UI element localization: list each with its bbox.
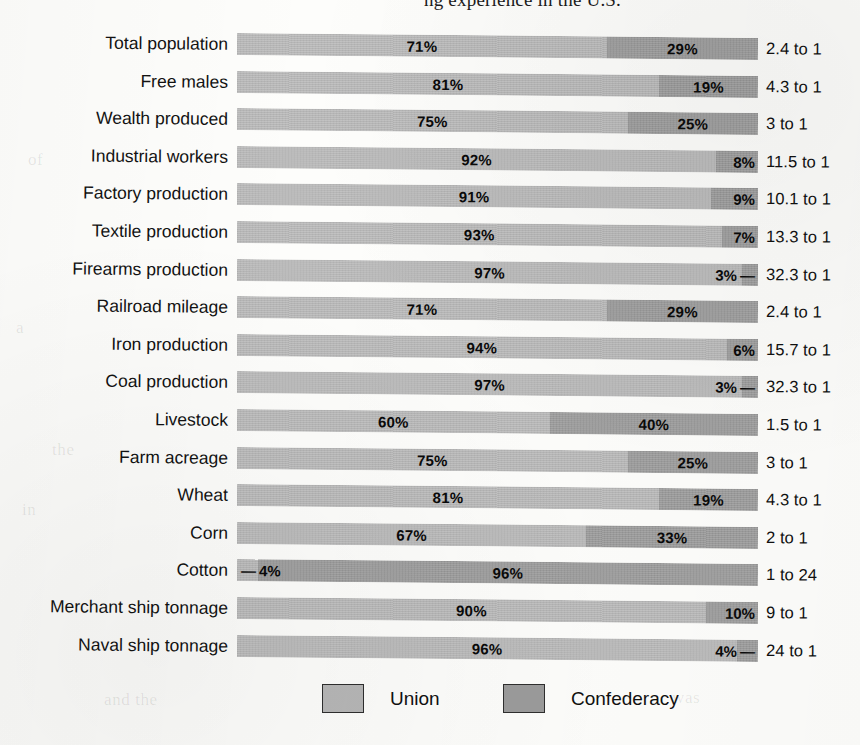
row-ratio: 11.5 to 1 bbox=[766, 152, 830, 172]
row-bar: 71%29% bbox=[237, 33, 758, 60]
row-ratio: 10.1 to 1 bbox=[766, 189, 831, 209]
row-ratio: 1 to 24 bbox=[766, 565, 817, 584]
bar-segment-union: 67% bbox=[237, 522, 586, 547]
row-ratio: 9 to 1 bbox=[766, 603, 808, 622]
bar-value-union: 97% bbox=[474, 263, 505, 280]
bar-segment-union: 93% bbox=[237, 221, 722, 248]
chart-row: Factory production91%9%10.1 to 1 bbox=[0, 178, 860, 216]
bar-value-confederacy: 8% bbox=[733, 151, 755, 173]
bar-value-confederacy: 3% — bbox=[715, 376, 755, 398]
bar-value-union: 60% bbox=[378, 413, 409, 430]
row-bar: 67%33% bbox=[237, 522, 758, 549]
bar-value-union: 71% bbox=[407, 300, 438, 317]
chart-row: Merchant ship tonnage90%10%9 to 1 bbox=[0, 592, 860, 630]
bar-segment-union: 92% bbox=[237, 146, 717, 173]
bar-value-union: 93% bbox=[464, 226, 495, 243]
chart-row: Naval ship tonnage96%4% —24 to 1 bbox=[0, 629, 860, 667]
chart-row: Livestock60%40%1.5 to 1 bbox=[0, 404, 860, 442]
row-label: Factory production bbox=[0, 180, 228, 205]
row-label: Naval ship tonnage bbox=[0, 632, 228, 657]
bar-segment-union: 60% bbox=[237, 409, 550, 434]
row-label: Corn bbox=[0, 519, 228, 544]
bar-value-union: 91% bbox=[459, 188, 490, 205]
row-bar: 81%19% bbox=[237, 71, 758, 98]
row-bar: 94% bbox=[237, 334, 758, 361]
legend-item-union[interactable]: Union bbox=[322, 684, 440, 713]
row-label: Wealth produced bbox=[0, 105, 228, 130]
bar-value-confederacy: 29% bbox=[667, 303, 698, 320]
bar-value-union: 71% bbox=[407, 37, 438, 54]
row-bar: 91% bbox=[237, 183, 758, 210]
bar-segment-confederacy: 25% bbox=[628, 450, 758, 473]
chart-row: Free males81%19%4.3 to 1 bbox=[0, 65, 860, 103]
bar-value-union: 75% bbox=[417, 112, 448, 129]
bar-value-union: 81% bbox=[433, 489, 464, 506]
row-label: Wheat bbox=[0, 481, 228, 506]
row-ratio: 2 to 1 bbox=[766, 528, 808, 547]
row-bar: 93% bbox=[237, 221, 758, 248]
bar-value-confederacy: 25% bbox=[677, 453, 708, 470]
bar-value-confederacy: 19% bbox=[693, 491, 724, 508]
row-ratio: 13.3 to 1 bbox=[766, 227, 831, 247]
row-ratio: 32.3 to 1 bbox=[766, 265, 831, 285]
chart-row: Coal production97%3% —32.3 to 1 bbox=[0, 366, 860, 404]
legend-label-union: Union bbox=[390, 688, 440, 710]
row-label: Free males bbox=[0, 68, 228, 93]
row-ratio: 2.4 to 1 bbox=[766, 39, 822, 59]
bar-value-confederacy: 29% bbox=[667, 40, 698, 57]
bar-segment-confederacy: 19% bbox=[659, 75, 758, 98]
bar-value-confederacy: 6% bbox=[733, 339, 755, 361]
row-ratio: 32.3 to 1 bbox=[766, 377, 831, 397]
bar-value-confederacy: 3% — bbox=[715, 263, 755, 285]
row-ratio: 4.3 to 1 bbox=[766, 77, 822, 97]
row-bar: 60%40% bbox=[237, 409, 758, 436]
chart-legend: Union Confederacy bbox=[0, 684, 860, 732]
row-bar: 71%29% bbox=[237, 296, 758, 323]
row-bar: 81%19% bbox=[237, 484, 758, 511]
legend-label-confederacy: Confederacy bbox=[571, 688, 679, 710]
row-label: Iron production bbox=[0, 331, 228, 356]
bar-value-union: 81% bbox=[433, 75, 464, 92]
row-bar: 90% bbox=[237, 597, 758, 624]
row-label: Total population bbox=[0, 30, 228, 55]
bar-segment-union: 96% bbox=[237, 635, 737, 662]
bar-value-confederacy: 33% bbox=[657, 528, 688, 545]
row-bar: 97% bbox=[237, 259, 758, 286]
chart-row: Wheat81%19%4.3 to 1 bbox=[0, 479, 860, 517]
chart-row: Total population71%29%2.4 to 1 bbox=[0, 28, 860, 66]
bar-segment-union: 75% bbox=[237, 447, 628, 473]
bar-segment-union: 71% bbox=[237, 33, 607, 59]
chart-row: Wealth produced75%25%3 to 1 bbox=[0, 103, 860, 141]
bar-value-confederacy: 7% bbox=[733, 226, 755, 248]
row-label: Coal production bbox=[0, 368, 228, 393]
bar-segment-confederacy: 96% bbox=[258, 560, 758, 587]
legend-item-confederacy[interactable]: Confederacy bbox=[503, 684, 679, 713]
bar-value-confederacy: 10% bbox=[725, 602, 755, 624]
bar-segment-confederacy: 29% bbox=[607, 37, 758, 60]
row-bar: 96% bbox=[237, 635, 758, 662]
bar-value-union: 75% bbox=[417, 451, 448, 468]
bar-segment-union: 94% bbox=[237, 334, 727, 361]
bar-segment-confederacy: 25% bbox=[628, 112, 758, 135]
bar-segment-union: 91% bbox=[237, 183, 711, 210]
legend-swatch-icon bbox=[503, 684, 545, 713]
bar-segment-confederacy: 33% bbox=[586, 525, 758, 549]
row-bar: 75%25% bbox=[237, 108, 758, 135]
bar-segment-confederacy: 19% bbox=[659, 488, 758, 511]
row-bar: 92% bbox=[237, 146, 758, 173]
bar-segment-union: 75% bbox=[237, 108, 628, 134]
row-label: Merchant ship tonnage bbox=[0, 594, 228, 619]
chart-row: Firearms production97%3% —32.3 to 1 bbox=[0, 253, 860, 291]
row-label: Railroad mileage bbox=[0, 293, 228, 318]
bar-segment-confederacy: 40% bbox=[549, 412, 758, 436]
row-label: Industrial workers bbox=[0, 143, 228, 168]
bar-value-union: 67% bbox=[396, 526, 427, 543]
bar-value-confederacy: 19% bbox=[693, 77, 724, 94]
row-label: Cotton bbox=[0, 556, 228, 581]
chart-row: Farm acreage75%25%3 to 1 bbox=[0, 441, 860, 479]
bar-segment-union: 81% bbox=[237, 484, 659, 510]
row-ratio: 3 to 1 bbox=[766, 114, 808, 133]
row-ratio: 3 to 1 bbox=[766, 453, 808, 472]
bar-value-confederacy: 96% bbox=[493, 564, 524, 581]
row-label: Firearms production bbox=[0, 256, 228, 281]
